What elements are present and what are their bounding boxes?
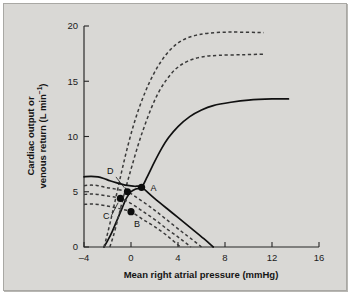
x-tick-label-8: 8 — [222, 252, 227, 263]
data-point-marker-A — [138, 184, 145, 191]
data-point-marker-B — [127, 208, 134, 215]
y-axis-title-line1: Cardiac output or — [25, 96, 36, 175]
y-tick-marks — [84, 26, 89, 247]
x-axis-title: Mean right atrial pressure (mmHg) — [124, 269, 279, 280]
y-tick-label-5: 5 — [73, 186, 78, 197]
data-point-marker-C — [117, 195, 124, 202]
y-tick-label-0: 0 — [73, 241, 78, 252]
x-tick-labels: –40481216 — [79, 252, 325, 263]
x-tick-label-0: 0 — [128, 252, 133, 263]
y-axis-title-line2-suffix: ) — [37, 83, 48, 86]
y-axis-title: Cardiac output or venous return (L min−1… — [25, 83, 48, 188]
curve-cardiac-function-normal — [104, 99, 288, 247]
x-tick-label-4: 4 — [175, 252, 180, 263]
cardiac-venous-return-plot: –40481216 05101520 ADCB Mean right atria… — [4, 4, 348, 292]
curves-group — [84, 32, 288, 247]
data-point-label-A: A — [151, 183, 157, 193]
y-axis-title-line2-prefix: venous return (L min — [37, 94, 48, 189]
data-point-label-D: D — [107, 166, 114, 176]
data-point-label-B: B — [134, 219, 140, 229]
y-tick-label-15: 15 — [67, 76, 78, 87]
figure-frame: –40481216 05101520 ADCB Mean right atria… — [3, 3, 347, 291]
data-point-label-C: C — [103, 211, 110, 221]
curve-cardiac-function-enhanced-2 — [104, 32, 264, 247]
y-tick-label-10: 10 — [67, 131, 78, 142]
y-axis-title-line2: venous return (L min−1) — [36, 83, 48, 188]
x-tick-label-16: 16 — [314, 252, 325, 263]
data-point-marker-D — [124, 188, 131, 195]
y-tick-label-20: 20 — [67, 20, 78, 31]
y-tick-labels: 05101520 — [67, 20, 78, 252]
curve-cardiac-function-enhanced-1 — [110, 54, 264, 247]
x-tick-label--4: –4 — [79, 252, 90, 263]
x-tick-label-12: 12 — [267, 252, 278, 263]
